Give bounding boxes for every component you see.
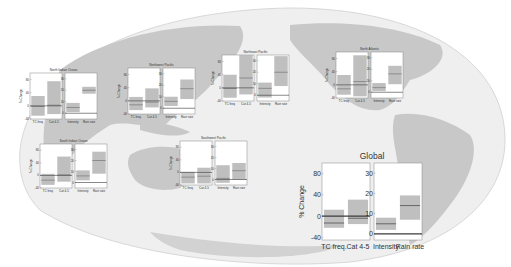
y-tick-label: 10	[159, 95, 163, 99]
y-tick-label: 20	[367, 67, 371, 71]
box-intensity	[76, 170, 89, 180]
y-tick-label: 80	[36, 148, 40, 152]
y-tick-label: 30	[365, 170, 373, 177]
y-tick-label: 40	[313, 191, 321, 198]
y-tick-label: 10	[253, 82, 257, 86]
x-tick-label: TC freq.	[131, 115, 142, 119]
x-tick-label: Cat 4-5	[49, 120, 59, 124]
panel-title: Global	[360, 151, 385, 161]
box-cat-4-5	[239, 55, 252, 94]
x-tick-label: TC freq.	[321, 243, 346, 251]
panel-title: North Atlantic	[360, 47, 379, 51]
box-cat-4-5	[47, 81, 60, 114]
x-tick-label: Intensity	[77, 189, 89, 193]
y-tick-label: 40	[36, 161, 40, 165]
x-tick-label: Intensity	[217, 186, 229, 190]
box-tc-freq-	[129, 97, 142, 110]
x-tick-label: Cat 4-5	[347, 243, 370, 250]
x-tick-label: TC freq.	[183, 186, 194, 190]
y-tick-label: 80	[218, 60, 222, 64]
x-tick-label: Rain rate	[396, 243, 425, 250]
x-tick-label: Cat 4-5	[147, 115, 157, 119]
box-cat-4-5	[57, 157, 70, 182]
box-rain-rate	[400, 195, 420, 219]
box-intensity	[372, 83, 385, 91]
box-tc-freq-	[223, 75, 236, 98]
y-tick-label: 10	[365, 210, 373, 217]
y-axis-label: % Change	[169, 156, 173, 170]
y-tick-label: -40	[123, 112, 128, 116]
y-tick-label: 30	[159, 72, 163, 76]
y-tick-label: 80	[176, 145, 180, 149]
box-cat-4-5	[145, 88, 158, 107]
y-tick-label: 20	[365, 190, 373, 197]
y-tick-label: 80	[332, 57, 336, 61]
x-tick-label: Intensity	[259, 102, 271, 106]
y-tick-label: 40	[124, 86, 128, 90]
x-tick-label: TC freq.	[339, 99, 350, 103]
x-tick-label: Rain rate	[93, 189, 106, 193]
x-tick-label: Cat 4-5	[199, 186, 209, 190]
y-tick-label: 30	[367, 56, 371, 60]
y-tick-label: 20	[211, 156, 215, 160]
y-tick-label: -40	[217, 99, 222, 103]
y-tick-label: 20	[159, 83, 163, 87]
y-tick-label: 80	[313, 170, 321, 177]
world-map-background	[20, 8, 505, 264]
box-rain-rate	[388, 66, 401, 84]
box-rain-rate	[232, 163, 245, 180]
y-tick-label: -40	[35, 186, 40, 190]
y-tick-label: 10	[367, 79, 371, 83]
x-tick-label: Cat 4-5	[241, 102, 251, 106]
box-intensity	[216, 165, 229, 183]
y-axis-label: % Change	[211, 71, 215, 85]
y-axis-label: % Change	[325, 68, 329, 82]
x-tick-label: Cat 4-5	[355, 99, 365, 103]
box-tc-freq-	[181, 172, 194, 184]
x-tick-label: Intensity	[67, 120, 79, 124]
panel-title: Northwest Pacific	[149, 63, 174, 67]
y-tick-label: 30	[61, 77, 65, 81]
y-axis-label: % Change	[19, 89, 23, 103]
y-tick-label: 40	[26, 91, 30, 95]
y-tick-label: 80	[124, 73, 128, 77]
panel-title: Southwest Pacific	[201, 136, 227, 140]
y-tick-label: 20	[71, 159, 75, 163]
x-tick-label: Rain rate	[181, 115, 194, 119]
box-rain-rate	[92, 152, 105, 174]
y-tick-label: 40	[176, 158, 180, 162]
y-tick-label: -40	[175, 183, 180, 187]
box-cat-4-5	[353, 55, 366, 96]
region-panel-southwest-pacific: Southwest Pacific-4004080TC freq.Cat 4-5…	[169, 136, 247, 189]
y-tick-label: 30	[71, 148, 75, 152]
y-tick-label: -40	[311, 234, 321, 241]
box-cat-4-5	[197, 168, 210, 184]
x-tick-label: Intensity	[373, 99, 385, 103]
region-panel-north-indian-ocean: North Indian Ocean-4004080TC freq.Cat 4-…	[19, 68, 97, 123]
panel-title: North Indian Ocean	[50, 68, 78, 72]
y-tick-label: 30	[253, 59, 257, 63]
x-tick-label: TC freq.	[225, 102, 236, 106]
y-axis-label: % Change	[298, 185, 306, 218]
y-tick-label: 30	[211, 145, 215, 149]
y-tick-label: 80	[26, 78, 30, 82]
region-panel-northeast-pacific: Northeast Pacific-4004080TC freq.Cat 4-5…	[211, 50, 289, 105]
x-tick-label: Rain rate	[389, 99, 402, 103]
panel-title: South Indian Ocean	[59, 139, 87, 143]
x-tick-label: TC freq.	[33, 120, 44, 124]
y-tick-label: 0	[369, 230, 373, 237]
y-tick-label: 0	[317, 213, 321, 220]
figure: North Indian Ocean-4004080TC freq.Cat 4-…	[0, 0, 511, 267]
x-tick-label: Rain rate	[83, 120, 96, 124]
region-panel-south-indian-ocean: South Indian Ocean-4004080TC freq.Cat 4-…	[29, 139, 107, 192]
y-axis-label: % Change	[29, 159, 33, 173]
y-tick-label: 10	[211, 167, 215, 171]
box-tc-freq-	[324, 210, 344, 228]
y-tick-label: 20	[61, 88, 65, 92]
x-tick-label: Rain rate	[233, 186, 246, 190]
panel-title: Northeast Pacific	[243, 50, 267, 54]
y-tick-label: -40	[25, 117, 30, 121]
y-axis-label: % Change	[117, 84, 121, 98]
y-tick-label: 10	[61, 100, 65, 104]
region-panel-north-atlantic: North Atlantic-4004080TC freq.Cat 4-5% C…	[325, 47, 403, 102]
